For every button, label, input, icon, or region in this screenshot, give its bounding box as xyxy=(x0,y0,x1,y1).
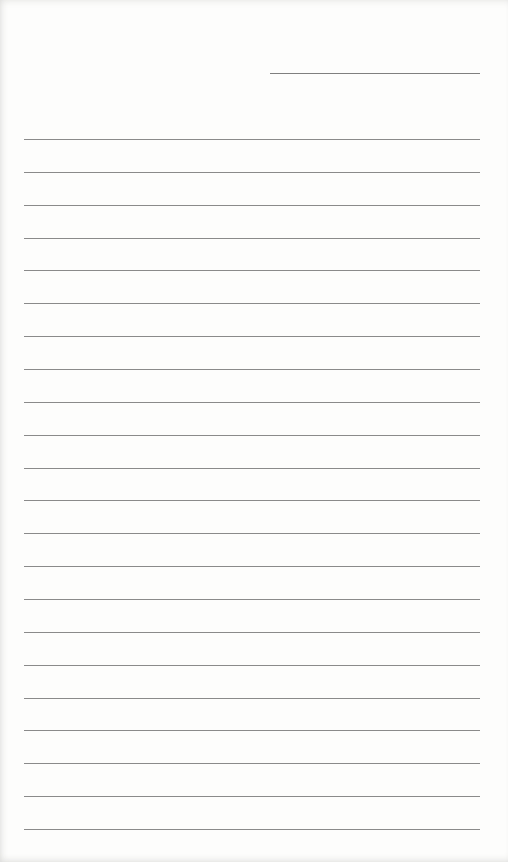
ruled-line[interactable] xyxy=(24,665,480,666)
ruled-line[interactable] xyxy=(24,369,480,370)
ruled-line[interactable] xyxy=(24,336,480,337)
ruled-line[interactable] xyxy=(24,139,480,140)
ruled-line[interactable] xyxy=(24,829,480,830)
ruled-line[interactable] xyxy=(24,205,480,206)
ruled-line[interactable] xyxy=(24,698,480,699)
ruled-line[interactable] xyxy=(24,468,480,469)
lined-paper-sheet xyxy=(0,0,508,862)
ruled-line[interactable] xyxy=(24,730,480,731)
ruled-line[interactable] xyxy=(24,303,480,304)
ruled-line[interactable] xyxy=(24,763,480,764)
ruled-line[interactable] xyxy=(24,796,480,797)
ruled-line[interactable] xyxy=(24,402,480,403)
ruled-line[interactable] xyxy=(24,566,480,567)
ruled-line[interactable] xyxy=(24,270,480,271)
ruled-line[interactable] xyxy=(24,500,480,501)
ruled-line[interactable] xyxy=(24,172,480,173)
ruled-line[interactable] xyxy=(24,599,480,600)
ruled-line[interactable] xyxy=(24,632,480,633)
date-line[interactable] xyxy=(270,73,480,74)
ruled-line[interactable] xyxy=(24,533,480,534)
ruled-line[interactable] xyxy=(24,238,480,239)
ruled-line[interactable] xyxy=(24,435,480,436)
